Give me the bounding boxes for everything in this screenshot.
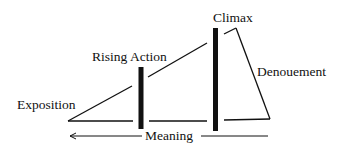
rising-line-segment-1: [68, 86, 132, 121]
climax-bar: [213, 28, 218, 131]
rising-action-bar: [139, 67, 144, 129]
climax-peak-segment: [224, 28, 236, 34]
baseline-segment-3: [224, 119, 270, 120]
denouement-label: Denouement: [257, 65, 326, 79]
plot-diagram: Exposition Rising Action Climax Denoueme…: [0, 0, 345, 152]
exposition-label: Exposition: [17, 98, 76, 112]
rising-action-label: Rising Action: [92, 50, 167, 64]
climax-label: Climax: [213, 11, 253, 25]
meaning-label: Meaning: [145, 129, 193, 143]
